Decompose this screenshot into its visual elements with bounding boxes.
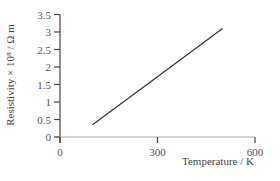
y-tick-label: 0.5 bbox=[37, 114, 51, 126]
y-tick-label: 1.5 bbox=[37, 79, 51, 91]
y-axis-label: Resistivity × 10⁸ / Ω m bbox=[4, 24, 16, 126]
y-tick-label: 2.5 bbox=[37, 44, 51, 56]
y-tick-label: 1 bbox=[46, 96, 52, 108]
y-tick-label: 0 bbox=[46, 131, 52, 143]
data-series bbox=[93, 29, 223, 125]
resistivity-temperature-chart: 00.511.522.533.50300600 Temperature / K … bbox=[0, 0, 280, 181]
x-tick-label: 300 bbox=[149, 146, 166, 158]
series-line bbox=[93, 29, 223, 125]
ticks: 00.511.522.533.50300600 bbox=[37, 9, 264, 159]
y-tick-label: 2 bbox=[46, 61, 52, 73]
x-axis-label: Temperature / K bbox=[182, 155, 254, 167]
y-tick-label: 3 bbox=[46, 26, 52, 38]
y-tick-label: 3.5 bbox=[37, 9, 51, 21]
x-tick-label: 0 bbox=[57, 146, 63, 158]
